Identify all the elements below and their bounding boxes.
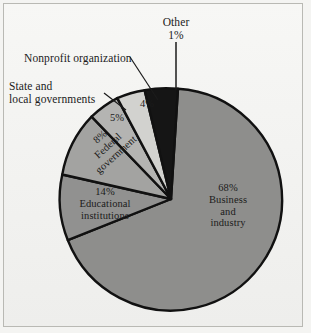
label-other: Other 1% [140,16,212,42]
pie-chart-figure: Other 1% Nonprofit organization State an… [0,0,311,333]
label-nonprofit-percent: 4% [135,98,159,110]
label-state-and-local-governments: State and local governments [9,80,119,106]
label-nonprofit-organization: Nonprofit organization [24,52,160,65]
label-educational-institutions: 14% Educational institutions [58,186,152,221]
pie-chart-graphic [0,0,311,333]
label-business-and-industry: 68% Business and industry [191,182,265,229]
